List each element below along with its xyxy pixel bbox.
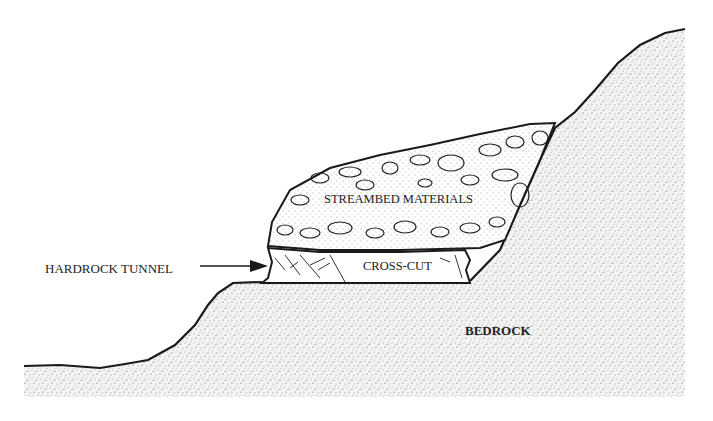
hardrock-tunnel-label: HARDROCK TUNNEL bbox=[45, 262, 173, 275]
cross-cut-label: CROSS-CUT bbox=[363, 260, 432, 273]
arrow-icon bbox=[200, 260, 268, 272]
bedrock-label: BEDROCK bbox=[465, 324, 531, 337]
streambed-materials-label: STREAMBED MATERIALS bbox=[324, 193, 473, 206]
cross-section-drawing bbox=[0, 0, 713, 421]
